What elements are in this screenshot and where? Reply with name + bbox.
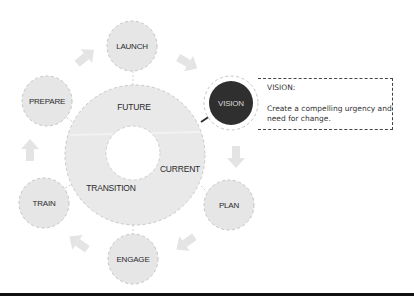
node-label-vision: VISION <box>218 99 244 108</box>
node-label-plan: PLAN <box>219 201 240 210</box>
node-train: TRAIN <box>19 178 69 228</box>
arrow-prepare-to-launch-icon <box>71 43 99 71</box>
bottom-divider <box>0 293 414 296</box>
node-label-engage: ENGAGE <box>116 255 149 264</box>
node-launch: LAUNCH <box>107 21 157 71</box>
callout-title: VISION: <box>267 83 295 92</box>
ring-label-current: CURRENT <box>160 164 200 174</box>
node-prepare: PREPARE <box>22 76 72 126</box>
node-plan: PLAN <box>204 180 254 230</box>
arrow-plan-to-engage-icon <box>171 229 199 256</box>
arrow-vision-to-plan-icon <box>227 146 245 168</box>
ring-label-transition: TRANSITION <box>86 183 136 193</box>
node-label-launch: LAUNCH <box>116 42 148 51</box>
node-label-prepare: PREPARE <box>29 97 65 106</box>
change-cycle-diagram: FUTURE CURRENT TRANSITION LAUNCH VISION … <box>0 0 414 303</box>
arrow-train-to-prepare-icon <box>21 139 39 161</box>
node-engage: ENGAGE <box>108 234 158 284</box>
node-label-train: TRAIN <box>32 199 55 208</box>
node-vision: VISION <box>204 76 258 130</box>
arrow-launch-to-vision-icon <box>174 50 202 77</box>
ring-label-future: FUTURE <box>117 102 151 112</box>
central-ring: FUTURE CURRENT TRANSITION <box>65 85 205 225</box>
arrow-engage-to-train-icon <box>64 229 92 256</box>
callout-body: Create a compelling urgency and need for… <box>267 104 392 124</box>
